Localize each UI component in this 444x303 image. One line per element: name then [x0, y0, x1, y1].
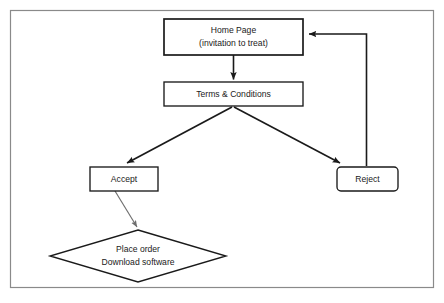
- node-accept[interactable]: Accept: [90, 167, 158, 191]
- home-page-label-line1: Home Page: [211, 25, 257, 35]
- node-terms-conditions[interactable]: Terms & Conditions: [164, 82, 303, 106]
- place-order-label-line1: Place order: [116, 244, 160, 254]
- connector-reject-to-home: [309, 34, 367, 166]
- node-place-order[interactable]: Place order Download software: [50, 230, 226, 282]
- terms-conditions-label: Terms & Conditions: [196, 89, 271, 99]
- node-reject[interactable]: Reject: [337, 167, 398, 191]
- reject-label: Reject: [355, 174, 380, 184]
- home-page-label-line2: (invitation to treat): [199, 38, 268, 48]
- node-home-page[interactable]: Home Page (invitation to treat): [164, 19, 303, 55]
- flowchart-diagram: Home Page (invitation to treat) Terms & …: [0, 0, 444, 303]
- connector-terms-to-reject: [234, 107, 340, 163]
- connector-accept-to-place-order: [115, 191, 137, 227]
- accept-label: Accept: [111, 174, 138, 184]
- connector-terms-to-accept: [127, 107, 232, 163]
- place-order-label-line2: Download software: [101, 257, 174, 267]
- flowchart-page: Home Page (invitation to treat) Terms & …: [0, 0, 444, 303]
